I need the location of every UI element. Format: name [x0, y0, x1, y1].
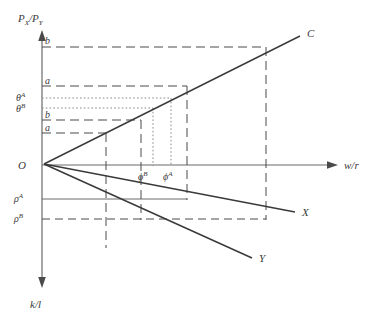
annotation-phi-B-sup: B — [143, 170, 148, 178]
horizontal-reference-lines — [42, 47, 266, 219]
tick-label-theta-B-sup: B — [21, 102, 26, 110]
origin-label: O — [18, 159, 26, 171]
axis-group — [38, 30, 338, 288]
y-axis-top-label: PX/PY — [17, 12, 44, 27]
ray-group — [44, 36, 300, 258]
vertical-drop-lines — [106, 47, 266, 248]
annotation-phi-B: ϕB — [138, 170, 148, 182]
y-axis-label-slashP: /P — [28, 12, 39, 24]
vertical-axis-down-arrow — [38, 277, 46, 288]
figure-canvas: PX/PY k/l w/r O C X Y b a θA θB b a ρA ρ… — [0, 0, 378, 318]
annotation-phi-A: ϕA — [163, 170, 173, 182]
tick-label-a-lower: a — [45, 122, 50, 133]
x-axis-label: w/r — [344, 159, 359, 171]
horizontal-axis-arrow — [327, 161, 338, 168]
svg-text:PX/PY: PX/PY — [17, 12, 44, 27]
ray-curve-C — [44, 36, 300, 164]
annotation-phi-A-sup: A — [167, 170, 173, 178]
tick-label-a-upper: a — [45, 75, 50, 86]
tick-label-b-lower: b — [45, 109, 50, 120]
curve-label-X: X — [301, 206, 310, 218]
tick-label-theta-A-sup: A — [20, 91, 26, 99]
tick-label-rho-A-sup: A — [18, 192, 24, 200]
economics-ray-diagram: PX/PY k/l w/r O C X Y b a θA θB b a ρA ρ… — [0, 0, 378, 318]
curve-label-Y: Y — [259, 252, 267, 264]
tick-label-rho-B-sup: B — [19, 212, 24, 220]
curve-label-C: C — [307, 27, 315, 39]
y-axis-label-subY: Y — [39, 19, 44, 27]
tick-label-b-upper: b — [45, 35, 50, 46]
y-axis-bottom-label: k/l — [30, 298, 41, 310]
tick-label-theta-B: θB — [16, 102, 26, 114]
tick-label-rho-B: ρB — [13, 212, 24, 224]
tick-label-rho-A: ρA — [13, 192, 24, 204]
ray-curve-Y — [44, 164, 252, 258]
